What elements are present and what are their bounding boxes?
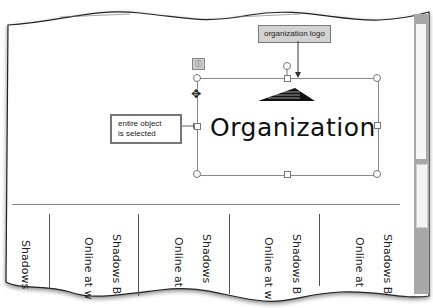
column-divider [138,214,139,296]
resize-handle-top-right[interactable] [373,74,381,82]
resize-handle-top-left[interactable] [193,74,201,82]
resize-handle-left[interactable] [194,123,201,130]
document-window: organization logo entire object is selec… [0,0,433,308]
callout-text-line1: entire object [118,119,174,129]
organization-text[interactable]: Organization [210,113,376,142]
column-text: Shadows [19,240,32,289]
column-text: Shadows [200,234,213,283]
column-text: Shadows B [381,234,394,294]
column-text: Online at w [82,237,95,300]
column-text: Online at w [262,237,275,300]
layout-options-icon[interactable]: ⓘ [192,58,205,70]
column-divider [229,214,230,294]
section-divider [12,204,400,205]
column-text: Online at [353,237,366,287]
resize-handle-bottom-right[interactable] [373,170,381,178]
resize-handle-bottom-left[interactable] [193,170,201,178]
column-text: Shadows B [290,234,303,294]
callout-text-line2: is selected [118,129,174,139]
callout-entire-object-selected: entire object is selected [110,114,182,144]
resize-handle-bottom[interactable] [284,171,291,178]
column-text: Shadows B [110,234,123,294]
rotate-handle[interactable] [283,62,291,70]
callout-text: organization logo [264,29,325,38]
scroll-thumb[interactable] [416,164,428,228]
column-divider [319,214,320,286]
callout-organization-logo: organization logo [258,25,331,43]
move-cursor-icon: ✥ [191,87,201,101]
resize-handle-top[interactable] [284,75,291,82]
scroll-track[interactable] [416,24,426,159]
column-divider [49,214,50,289]
vertical-scrollbar[interactable] [414,14,429,294]
column-text: Online at [172,237,185,287]
